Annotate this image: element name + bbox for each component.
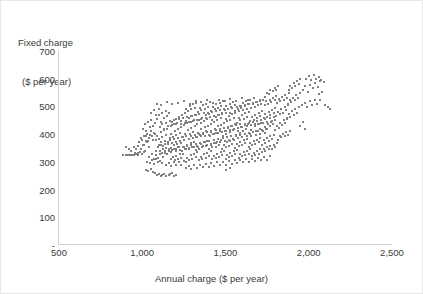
scatter-point bbox=[277, 139, 279, 141]
scatter-point bbox=[192, 120, 194, 122]
scatter-point bbox=[239, 134, 241, 136]
scatter-point bbox=[234, 110, 236, 112]
scatter-point bbox=[289, 99, 291, 101]
scatter-point bbox=[203, 112, 205, 114]
scatter-point bbox=[254, 106, 256, 108]
scatter-point bbox=[261, 129, 263, 131]
scatter-point bbox=[239, 123, 241, 125]
scatter-point bbox=[258, 141, 260, 143]
scatter-point bbox=[175, 134, 177, 136]
scatter-point bbox=[172, 156, 174, 158]
scatter-point bbox=[289, 116, 291, 118]
scatter-point bbox=[208, 148, 210, 150]
scatter-point bbox=[186, 145, 188, 147]
scatter-point bbox=[275, 95, 277, 97]
scatter-point bbox=[254, 160, 256, 162]
scatter-point bbox=[283, 119, 285, 121]
scatter-point bbox=[202, 145, 204, 147]
scatter-point bbox=[213, 133, 215, 135]
scatter-point bbox=[286, 118, 288, 120]
scatter-point bbox=[223, 150, 225, 152]
scatter-point bbox=[152, 125, 154, 127]
scatter-point bbox=[267, 103, 269, 105]
scatter-point bbox=[289, 130, 291, 132]
scatter-point bbox=[254, 143, 256, 145]
scatter-point bbox=[329, 108, 331, 110]
scatter-point bbox=[239, 141, 241, 143]
scatter-point bbox=[260, 119, 262, 121]
scatter-point bbox=[243, 151, 245, 153]
scatter-point bbox=[298, 83, 300, 85]
x-axis-tick-label: 2,000 bbox=[279, 247, 339, 258]
scatter-point bbox=[273, 116, 275, 118]
scatter-point bbox=[269, 135, 271, 137]
scatter-point bbox=[248, 153, 250, 155]
scatter-point bbox=[128, 148, 130, 150]
scatter-point bbox=[264, 142, 266, 144]
scatter-point bbox=[169, 139, 171, 141]
scatter-point bbox=[274, 99, 276, 101]
scatter-point bbox=[239, 159, 241, 161]
scatter-point bbox=[202, 132, 204, 134]
scatter-point bbox=[225, 158, 227, 160]
scatter-point bbox=[254, 114, 256, 116]
scatter-point bbox=[138, 141, 140, 143]
scatter-point bbox=[314, 99, 316, 101]
scatter-point bbox=[215, 103, 217, 105]
scatter-point bbox=[261, 144, 263, 146]
scatter-point bbox=[185, 135, 187, 137]
scatter-point bbox=[236, 106, 238, 108]
scatter-point bbox=[263, 139, 265, 141]
scatter-point bbox=[216, 161, 218, 163]
scatter-point bbox=[302, 121, 304, 123]
scatter-point bbox=[213, 165, 215, 167]
scatter-point bbox=[304, 85, 306, 87]
scatter-point bbox=[151, 153, 153, 155]
scatter-point bbox=[156, 103, 158, 105]
scatter-point bbox=[180, 120, 182, 122]
scatter-point bbox=[226, 120, 228, 122]
scatter-point bbox=[182, 146, 184, 148]
scatter-point bbox=[175, 174, 177, 176]
scatter-point bbox=[209, 116, 211, 118]
scatter-point bbox=[233, 128, 235, 130]
scatter-point bbox=[275, 89, 277, 91]
scatter-point bbox=[205, 103, 207, 105]
scatter-point bbox=[171, 103, 173, 105]
scatter-point bbox=[166, 115, 168, 117]
scatter-point bbox=[156, 118, 158, 120]
scatter-point bbox=[180, 142, 182, 144]
scatter-point bbox=[194, 134, 196, 136]
scatter-point bbox=[154, 133, 156, 135]
scatter-point bbox=[175, 164, 177, 166]
scatter-point bbox=[304, 102, 306, 104]
scatter-point bbox=[181, 136, 183, 138]
scatter-point bbox=[222, 161, 224, 163]
scatter-point bbox=[195, 156, 197, 158]
scatter-point bbox=[188, 138, 190, 140]
scatter-point bbox=[174, 130, 176, 132]
scatter-point bbox=[208, 166, 210, 168]
scatter-point bbox=[225, 130, 227, 132]
scatter-point bbox=[281, 124, 283, 126]
scatter-point bbox=[208, 134, 210, 136]
scatter-point bbox=[155, 114, 157, 116]
scatter-point bbox=[279, 113, 281, 115]
scatter-point bbox=[200, 109, 202, 111]
scatter-point bbox=[177, 158, 179, 160]
scatter-point bbox=[219, 102, 221, 104]
scatter-point bbox=[236, 122, 238, 124]
scatter-point bbox=[229, 167, 231, 169]
scatter-point bbox=[273, 112, 275, 114]
scatter-point bbox=[157, 157, 159, 159]
scatter-point bbox=[161, 162, 163, 164]
scatter-point bbox=[166, 153, 168, 155]
scatter-point bbox=[177, 146, 179, 148]
scatter-point bbox=[179, 140, 181, 142]
scatter-point bbox=[250, 107, 252, 109]
scatter-point bbox=[151, 135, 153, 137]
scatter-point bbox=[246, 116, 248, 118]
scatter-point bbox=[177, 137, 179, 139]
scatter-point bbox=[177, 128, 179, 130]
scatter-point bbox=[244, 123, 246, 125]
